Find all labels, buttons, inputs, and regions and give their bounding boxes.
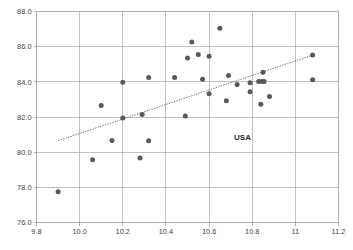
data-point xyxy=(120,115,125,120)
y-tick-label: 82.0 xyxy=(17,113,31,122)
annotation-label: USA xyxy=(234,133,251,142)
data-point xyxy=(258,102,263,107)
scatter-chart: 76.078.080.082.084.086.088.09.810.010.21… xyxy=(0,0,353,250)
data-point xyxy=(207,91,212,96)
data-point xyxy=(56,189,61,194)
data-point xyxy=(185,56,190,61)
x-tick-label: 10.8 xyxy=(245,227,259,236)
data-point xyxy=(207,54,212,59)
data-point xyxy=(267,94,272,99)
x-tick-label: 11 xyxy=(292,227,300,236)
data-point xyxy=(262,79,267,84)
data-point xyxy=(248,89,253,94)
data-point xyxy=(196,52,201,57)
x-tick-label: 10.6 xyxy=(202,227,216,236)
x-tick-label: 10.0 xyxy=(72,227,86,236)
data-point xyxy=(261,70,266,75)
data-point xyxy=(226,73,231,78)
x-tick-label: 10.2 xyxy=(116,227,130,236)
y-tick-label: 86.0 xyxy=(17,42,31,51)
data-point xyxy=(183,114,188,119)
x-tick-label: 10.4 xyxy=(159,227,173,236)
data-point xyxy=(99,103,104,108)
y-tick-label: 84.0 xyxy=(17,78,31,87)
data-point xyxy=(138,155,143,160)
data-point xyxy=(310,53,315,58)
data-point xyxy=(248,80,253,85)
data-point xyxy=(217,26,222,31)
x-tick-label: 9.8 xyxy=(31,227,41,236)
data-point xyxy=(140,112,145,117)
x-tick-label: 11.2 xyxy=(332,227,346,236)
data-point xyxy=(172,75,177,80)
data-point xyxy=(110,138,115,143)
y-tick-label: 88.0 xyxy=(17,7,31,16)
chart-canvas: 76.078.080.082.084.086.088.09.810.010.21… xyxy=(0,0,353,250)
data-point xyxy=(235,82,240,87)
y-tick-label: 80.0 xyxy=(17,148,31,157)
data-point xyxy=(200,77,205,82)
data-point xyxy=(224,98,229,103)
data-point xyxy=(310,77,315,82)
y-tick-label: 76.0 xyxy=(17,218,31,227)
data-point xyxy=(146,138,151,143)
data-point xyxy=(120,80,125,85)
y-tick-label: 78.0 xyxy=(17,183,31,192)
data-point xyxy=(90,157,95,162)
data-point xyxy=(189,39,194,44)
data-point xyxy=(146,75,151,80)
trend-line xyxy=(58,55,313,141)
